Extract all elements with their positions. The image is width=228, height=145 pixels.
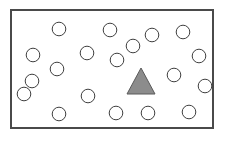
- figure-frame: [10, 9, 214, 129]
- figure-canvas: [0, 0, 228, 145]
